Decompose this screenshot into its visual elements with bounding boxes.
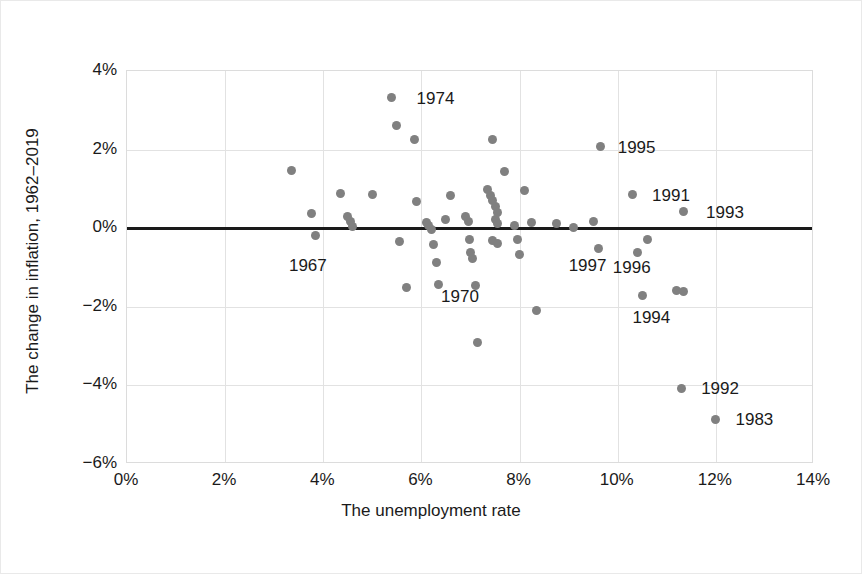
y-tick-label: −2% xyxy=(45,297,117,314)
point-annotation-1995: 1995 xyxy=(618,139,656,156)
scatter-point xyxy=(679,207,688,216)
gridline-horizontal xyxy=(127,150,812,151)
x-tick-label: 8% xyxy=(479,471,559,488)
scatter-point xyxy=(527,218,536,227)
gridline-horizontal xyxy=(127,307,812,308)
point-annotation-1994: 1994 xyxy=(632,309,670,326)
point-annotation-1974: 1974 xyxy=(417,90,455,107)
y-tick-label: 2% xyxy=(45,140,117,157)
scatter-point xyxy=(552,219,561,228)
zero-reference-line xyxy=(127,227,812,230)
gridline-vertical xyxy=(520,71,521,462)
scatter-point xyxy=(493,219,502,228)
scatter-point xyxy=(464,217,473,226)
scatter-point xyxy=(429,240,438,249)
x-tick-label: 0% xyxy=(86,471,166,488)
scatter-point xyxy=(336,189,345,198)
x-tick-label: 14% xyxy=(773,471,853,488)
gridline-vertical xyxy=(716,71,717,462)
y-tick-label: 0% xyxy=(45,218,117,235)
x-axis-title: The unemployment rate xyxy=(1,501,861,521)
scatter-point xyxy=(520,186,529,195)
point-annotation-1970: 1970 xyxy=(441,288,479,305)
scatter-point xyxy=(515,250,524,259)
point-annotation-1997: 1997 xyxy=(569,257,607,274)
scatter-point xyxy=(441,215,450,224)
scatter-point xyxy=(468,254,477,263)
scatter-point xyxy=(596,142,605,151)
scatter-point xyxy=(311,231,320,240)
point-annotation-1967: 1967 xyxy=(289,257,327,274)
scatter-point xyxy=(410,135,419,144)
point-annotation-1983: 1983 xyxy=(735,411,773,428)
point-annotation-1993: 1993 xyxy=(706,204,744,221)
scatter-point xyxy=(368,190,377,199)
scatter-point xyxy=(387,93,396,102)
y-tick-label: −4% xyxy=(45,375,117,392)
scatter-point xyxy=(594,244,603,253)
scatter-point xyxy=(432,258,441,267)
x-tick-label: 6% xyxy=(380,471,460,488)
scatter-point xyxy=(679,287,688,296)
scatter-point xyxy=(402,283,411,292)
scatter-point xyxy=(589,217,598,226)
scatter-point xyxy=(427,225,436,234)
scatter-point xyxy=(711,415,720,424)
x-tick-label: 2% xyxy=(184,471,264,488)
point-annotation-1992: 1992 xyxy=(701,380,739,397)
y-tick-label: −6% xyxy=(45,454,117,471)
scatter-point xyxy=(348,222,357,231)
scatter-point xyxy=(633,248,642,257)
point-annotation-1991: 1991 xyxy=(652,187,690,204)
scatter-point xyxy=(569,223,578,232)
scatter-point xyxy=(488,135,497,144)
scatter-point xyxy=(446,191,455,200)
scatter-point xyxy=(412,197,421,206)
y-tick-label: 4% xyxy=(45,61,117,78)
scatter-point xyxy=(287,166,296,175)
scatter-point xyxy=(628,190,637,199)
scatter-point xyxy=(643,235,652,244)
chart-figure: 4%2%0%−2%−4%−6% 0%2%4%6%8%10%12%14% The … xyxy=(0,0,862,574)
scatter-point xyxy=(493,239,502,248)
scatter-point xyxy=(395,237,404,246)
scatter-point xyxy=(307,209,316,218)
y-axis-title: The change in inflation, 1962–2019 xyxy=(23,61,43,461)
scatter-point xyxy=(638,291,647,300)
scatter-point xyxy=(677,384,686,393)
gridline-vertical xyxy=(421,71,422,462)
x-tick-label: 12% xyxy=(675,471,755,488)
x-tick-label: 10% xyxy=(577,471,657,488)
scatter-point xyxy=(392,121,401,130)
scatter-point xyxy=(473,338,482,347)
x-tick-label: 4% xyxy=(282,471,362,488)
point-annotation-1996: 1996 xyxy=(613,259,651,276)
scatter-point xyxy=(510,221,519,230)
scatter-point xyxy=(500,167,509,176)
scatter-point xyxy=(532,306,541,315)
plot-area: 1974199519911993196719701997199619941992… xyxy=(126,70,813,463)
scatter-point xyxy=(465,235,474,244)
gridline-vertical xyxy=(225,71,226,462)
